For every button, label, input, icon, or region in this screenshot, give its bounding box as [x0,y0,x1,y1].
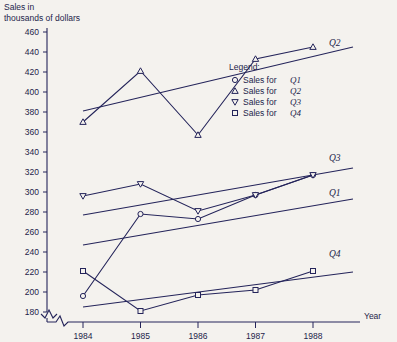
series-q4 [81,199,354,314]
y-tick-label: 380 [25,107,39,117]
sales-line-chart: Sales in thousands of dollars 1802002202… [0,0,397,342]
x-axis-ticks: 19841985198619871988 [74,322,323,341]
data-point-q1-1986 [195,216,200,221]
series-end-label-q4: Q4 [329,249,341,259]
y-tick-label: 440 [25,47,39,57]
y-tick-label: 360 [25,127,39,137]
x-tick-label: 1984 [74,331,93,341]
x-tick-label: 1985 [131,331,150,341]
trend-line-q1 [83,272,353,307]
y-tick-label: 200 [25,287,39,297]
x-tick-label: 1988 [304,331,323,341]
data-point-q1-1984 [80,293,85,298]
legend-marker-q4 [233,111,238,116]
chart-canvas: Sales in thousands of dollars 1802002202… [0,0,397,342]
data-point-q4-1984 [81,269,86,274]
data-point-q4-1988 [311,269,316,274]
series-end-labels: Q1Q2Q3Q4 [329,38,341,259]
legend-label-q1: Sales for [243,75,277,85]
y-tick-label: 180 [25,307,39,317]
series-q3 [80,168,353,215]
legend-title: Legend: [229,62,260,72]
legend: Legend: Sales forQ1Sales forQ2Sales forQ… [229,62,301,118]
data-point-q1-1985 [138,211,143,216]
y-tick-label: 300 [25,187,39,197]
y-axis-title-line1: Sales in [4,2,35,12]
y-tick-label: 260 [25,227,39,237]
y-axis-ticks: 1802002202402602803003203403603804004204… [25,27,47,317]
legend-label-q2: Sales for [243,86,277,96]
y-axis-break [41,310,57,318]
data-point-q3-1984 [80,194,86,200]
x-tick-label: 1986 [189,331,208,341]
legend-marker-q3 [232,100,238,106]
series-line-q1 [83,175,313,296]
y-tick-label: 280 [25,207,39,217]
data-point-q4-1987 [253,288,258,293]
series-line-q4 [83,271,313,311]
legend-marker-q1 [232,77,237,82]
trend-line-q2 [83,47,353,111]
series-end-label-q1: Q1 [329,188,341,198]
y-tick-label: 400 [25,87,39,97]
series-end-label-q2: Q2 [329,38,341,48]
legend-label-q3: Sales for [243,97,277,107]
series-layer [80,44,353,314]
x-tick-label: 1987 [246,331,265,341]
data-point-q4-1985 [138,309,143,314]
y-tick-label: 340 [25,147,39,157]
legend-label-q4: Sales for [243,108,277,118]
legend-series-q1: Q1 [290,75,301,85]
y-tick-label: 460 [25,27,39,37]
data-point-q4-1986 [196,293,201,298]
data-point-q2-1985 [137,68,143,74]
y-axis-title-line2: thousands of dollars [4,13,80,23]
data-point-q2-1988 [310,44,316,50]
series-line-q2 [83,47,313,135]
legend-series-q3: Q3 [290,97,301,107]
series-q1 [80,172,353,307]
y-tick-label: 320 [25,167,39,177]
x-axis-title: Year [364,311,381,321]
y-tick-label: 220 [25,267,39,277]
legend-series-q4: Q4 [290,108,301,118]
y-tick-label: 420 [25,67,39,77]
y-tick-label: 240 [25,247,39,257]
legend-series-q2: Q2 [290,86,301,96]
data-point-q3-1986 [195,209,201,215]
series-end-label-q3: Q3 [329,153,341,163]
series-q2 [80,44,353,138]
